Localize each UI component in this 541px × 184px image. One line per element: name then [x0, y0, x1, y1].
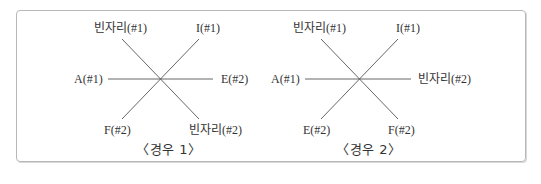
diagram-case-1-lines [108, 39, 213, 119]
label-right: E(#2) [221, 72, 248, 86]
label-right: 빈자리(#2) [418, 72, 471, 86]
label-top-right: I(#1) [196, 21, 220, 35]
label-top-right: I(#1) [396, 21, 420, 35]
star-diagrams [0, 0, 541, 184]
label-left: A(#1) [74, 72, 103, 86]
label-bottom-left: E(#2) [303, 123, 330, 137]
label-bottom-right: 빈자리(#2) [189, 123, 242, 137]
caption-case-1: 〈경우 1〉 [136, 142, 201, 157]
caption-case-2: 〈경우 2〉 [336, 142, 401, 157]
label-bottom-left: F(#2) [104, 123, 131, 137]
label-top-left: 빈자리(#1) [293, 21, 346, 35]
label-left: A(#1) [271, 72, 300, 86]
label-top-left: 빈자리(#1) [94, 21, 147, 35]
label-bottom-right: F(#2) [388, 123, 415, 137]
diagram-case-2-lines [305, 39, 411, 119]
